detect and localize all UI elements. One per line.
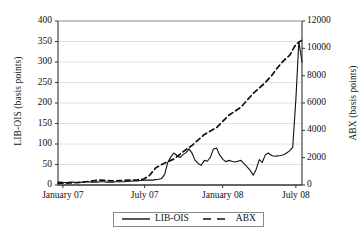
legend-label-abx: ABX	[236, 214, 256, 224]
y-axis-left-tick-label: 200	[18, 97, 52, 107]
y-axis-right-tick-label: 10000	[307, 42, 347, 52]
y-axis-right-tick-label: 12000	[307, 15, 347, 25]
y-axis-left-tick-label: 250	[18, 77, 52, 87]
y-axis-left-tick-label: 400	[18, 15, 52, 25]
x-axis-tick-label: January 08	[183, 190, 263, 200]
x-axis-tick-label: January 07	[23, 190, 103, 200]
y-axis-right-tick-label: 8000	[307, 70, 347, 80]
data-series-layer	[58, 40, 302, 183]
y-axis-right-tick-label: 4000	[307, 124, 347, 134]
chart-figure: LIB-OIS (basis points) ABX (basis points…	[0, 0, 362, 240]
legend-entry-abx: ABX	[202, 214, 256, 224]
y-axis-left-tick-label: 350	[18, 36, 52, 46]
y-axis-left-tick-label: 300	[18, 56, 52, 66]
legend-entry-lib-ois: LIB-OIS	[121, 214, 189, 224]
x-axis-tick-label: July 07	[105, 190, 185, 200]
x-axis-tick-label: July 08	[256, 190, 336, 200]
y-axis-right-tick-label: 6000	[307, 97, 347, 107]
legend-label-lib-ois: LIB-OIS	[155, 214, 189, 224]
y-axis-right-tick-label: 0	[307, 179, 347, 189]
legend-solid-line-icon	[121, 215, 151, 223]
legend-dashed-line-icon	[202, 215, 232, 223]
series-line-abx	[58, 40, 302, 183]
gridlines	[58, 21, 302, 165]
y-axis-left-tick-label: 50	[18, 159, 52, 169]
y-axis-left-tick-label: 0	[18, 179, 52, 189]
y-axis-left-tick-label: 150	[18, 118, 52, 128]
chart-legend: LIB-OIS ABX	[113, 212, 264, 227]
series-line-lib-ois	[58, 42, 302, 183]
plot-area	[0, 0, 362, 240]
y-axis-left-tick-label: 100	[18, 138, 52, 148]
y-axis-right-tick-label: 2000	[307, 152, 347, 162]
